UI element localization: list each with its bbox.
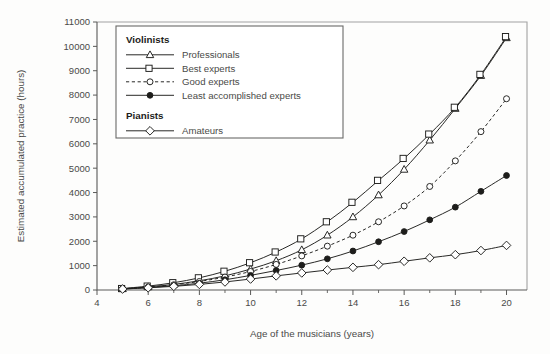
marker-diamond bbox=[272, 272, 281, 281]
y-axis-title: Estimated accumulated practice (hours) bbox=[15, 70, 26, 243]
legend-item-label: Amateurs bbox=[182, 125, 223, 136]
legend-group-heading: Pianists bbox=[126, 110, 164, 121]
x-axis-tick-label: 18 bbox=[450, 297, 461, 308]
y-axis-tick-label: 8000 bbox=[69, 89, 90, 100]
marker-circle-filled bbox=[376, 239, 382, 245]
marker-circle-filled bbox=[299, 262, 305, 268]
marker-square bbox=[221, 268, 227, 274]
marker-square bbox=[477, 71, 483, 77]
x-axis-tick-label: 16 bbox=[399, 297, 410, 308]
y-axis-tick-label: 2000 bbox=[69, 236, 90, 247]
series-least-accomplished-experts bbox=[120, 173, 510, 292]
x-axis-tick-label: 8 bbox=[197, 297, 202, 308]
marker-square bbox=[451, 104, 457, 110]
marker-square bbox=[298, 236, 304, 242]
x-axis-tick-label: 10 bbox=[245, 297, 256, 308]
y-axis-tick-label: 0 bbox=[85, 284, 90, 295]
legend-item-label: Good experts bbox=[182, 76, 240, 87]
marker-circle-filled bbox=[452, 204, 458, 210]
marker-triangle bbox=[349, 213, 356, 220]
marker-diamond bbox=[477, 246, 486, 255]
marker-circle-open bbox=[452, 158, 458, 164]
marker-diamond bbox=[374, 260, 383, 269]
x-axis-tick-label: 4 bbox=[94, 297, 99, 308]
marker-diamond bbox=[349, 263, 358, 272]
marker-circle-open bbox=[427, 183, 433, 189]
y-axis-tick-label: 11000 bbox=[64, 16, 90, 27]
y-axis-tick-label: 7000 bbox=[69, 114, 90, 125]
marker-diamond bbox=[297, 269, 306, 278]
y-axis-tick-label: 10000 bbox=[64, 41, 90, 52]
marker-circle-filled bbox=[504, 173, 510, 179]
marker-circle-open bbox=[401, 203, 407, 209]
practice-hours-line-chart: 0100020003000400050006000700080009000100… bbox=[0, 0, 550, 354]
series-line bbox=[123, 175, 507, 289]
x-axis-tick-label: 14 bbox=[348, 297, 359, 308]
legend-layer: ViolinistsProfessionalsBest expertsGood … bbox=[116, 26, 343, 138]
legend-item-label: Best experts bbox=[182, 63, 236, 74]
marker-circle-filled bbox=[427, 217, 433, 223]
y-axis-tick-label: 6000 bbox=[69, 138, 90, 149]
series-amateurs bbox=[118, 241, 511, 293]
marker-circle-filled bbox=[147, 92, 153, 98]
series-line bbox=[123, 245, 507, 289]
legend-item-label: Professionals bbox=[182, 49, 240, 60]
legend-item-label: Least accomplished experts bbox=[182, 90, 301, 101]
x-axis-title: Age of the musicians (years) bbox=[250, 328, 374, 339]
marker-circle-filled bbox=[324, 256, 330, 262]
marker-diamond bbox=[451, 250, 460, 259]
marker-square bbox=[146, 65, 152, 71]
marker-square bbox=[374, 177, 380, 183]
x-axis-tick-label: 20 bbox=[501, 297, 512, 308]
marker-square bbox=[400, 155, 406, 161]
marker-circle-open bbox=[504, 96, 510, 102]
marker-square bbox=[272, 249, 278, 255]
marker-diamond bbox=[502, 241, 511, 250]
y-axis-tick-label: 4000 bbox=[69, 187, 90, 198]
marker-circle-open bbox=[478, 129, 484, 135]
marker-circle-open bbox=[147, 79, 153, 85]
y-axis-tick-label: 9000 bbox=[69, 65, 90, 76]
marker-triangle bbox=[298, 246, 305, 253]
x-axis-tick-label: 6 bbox=[146, 297, 151, 308]
marker-circle-filled bbox=[401, 229, 407, 235]
chart-figure: 0100020003000400050006000700080009000100… bbox=[0, 0, 550, 354]
marker-square bbox=[246, 260, 252, 266]
marker-circle-open bbox=[324, 243, 330, 249]
marker-square bbox=[502, 34, 508, 40]
marker-square bbox=[323, 219, 329, 225]
marker-diamond bbox=[425, 254, 434, 263]
marker-circle-open bbox=[299, 253, 305, 259]
marker-diamond bbox=[400, 257, 409, 266]
y-axis-tick-label: 1000 bbox=[69, 260, 90, 271]
marker-circle-open bbox=[350, 232, 356, 238]
legend-group-heading: Violinists bbox=[126, 34, 170, 45]
marker-circle-open bbox=[376, 219, 382, 225]
marker-diamond bbox=[323, 266, 332, 275]
y-axis-tick-label: 5000 bbox=[69, 163, 90, 174]
marker-square bbox=[426, 131, 432, 137]
y-axis-tick-label: 3000 bbox=[69, 211, 90, 222]
x-axis-tick-label: 12 bbox=[296, 297, 307, 308]
marker-circle-open bbox=[273, 261, 279, 267]
marker-circle-filled bbox=[350, 248, 356, 254]
marker-triangle bbox=[324, 231, 331, 238]
marker-circle-filled bbox=[478, 188, 484, 194]
marker-square bbox=[349, 199, 355, 205]
